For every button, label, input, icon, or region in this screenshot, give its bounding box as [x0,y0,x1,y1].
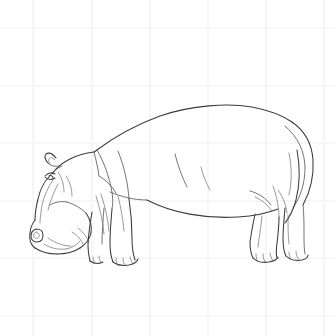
face-front-3-stroke [48,184,58,210]
jaw-to-cheek-stroke [67,202,86,213]
face-front-stroke [35,177,49,220]
head-back-stroke [94,152,99,176]
hindleg-far-back-stroke [303,205,305,254]
tail-inner-stroke [289,153,291,195]
jowl-line-1-stroke [72,232,83,244]
foreleg-near-back-stroke [129,199,135,260]
cheek-line-1-stroke [58,172,64,192]
jowl-line-2-stroke [78,228,89,242]
hindleg-near-back-stroke [276,217,279,258]
artwork-canvas: Hippopotamus [0,0,336,336]
cheek-to-head-stroke [50,202,67,205]
rump-outer-stroke [292,122,313,205]
fore-muscle-2-stroke [101,194,109,231]
lip-line-2-stroke [48,238,71,246]
muzzle-to-jaw-stroke [57,248,80,254]
hind-haunch-2-stroke [255,197,272,211]
rump-inner-stroke [285,126,305,208]
foreleg-near-toe-2-stroke [123,258,126,266]
belly-line-stroke [147,200,278,217]
hind-muscle-2-stroke [288,215,289,244]
cheek-line-2-stroke [66,176,72,196]
hindleg-near-front-stroke [250,214,255,258]
muzzle-bottom-stroke [35,248,57,254]
hind-muscle-1-stroke [258,216,262,247]
foreleg-near-front-stroke [110,209,113,262]
hippopotamus-line-drawing: Hippopotamus [0,0,336,336]
foreleg-far-toe-2-stroke [99,256,101,262]
fore-shoulder-mass-stroke [99,176,116,193]
hippopotamus-figure [30,105,313,266]
flank-crease-stroke [175,154,187,187]
graph-paper-grid [0,0,336,336]
hind-haunch-1-stroke [250,191,271,205]
hindleg-near-toe-3-stroke [270,253,273,261]
hindleg-far-front-stroke [283,208,286,256]
nostril-inner-stroke [34,232,40,239]
mouth-fold-stroke [66,241,80,249]
head-top-stroke [52,152,94,174]
back-topline-stroke [94,105,292,152]
shoulder-crease-stroke [118,151,129,199]
